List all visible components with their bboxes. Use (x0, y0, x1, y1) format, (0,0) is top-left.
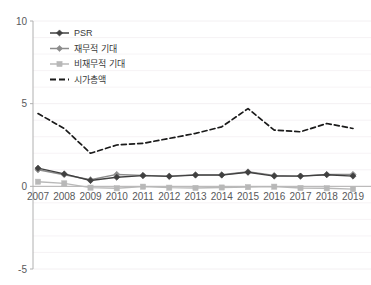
x-axis-tick-label: 2012 (158, 191, 181, 202)
data-point-marker (114, 186, 119, 191)
data-point-marker (298, 185, 303, 190)
x-axis-tick-label: 2016 (263, 191, 286, 202)
data-point-marker (219, 185, 224, 190)
x-axis-tick-label: 2015 (237, 191, 260, 202)
x-axis-tick-label: 2014 (211, 191, 234, 202)
series-4 (38, 109, 353, 154)
data-point-marker (62, 181, 67, 186)
data-point-marker (140, 172, 146, 178)
legend-item-2[interactable]: 재무적 기대 (50, 43, 117, 54)
x-axis-tick-label: 2019 (342, 191, 365, 202)
gridlines (33, 21, 371, 269)
y-axis-tick-label: 0 (21, 181, 27, 192)
x-axis-tick-label: 2010 (106, 191, 129, 202)
legend-label: PSR (74, 28, 93, 38)
legend-label: 비재무적 기대 (74, 58, 125, 69)
data-point-marker (324, 186, 329, 191)
legend-item-3[interactable]: 비재무적 기대 (50, 58, 125, 69)
data-point-marker (297, 173, 303, 179)
x-axis-tick-label: 2011 (132, 191, 154, 202)
data-point-marker (57, 61, 62, 66)
data-point-marker (35, 179, 40, 184)
x-axis-tick-labels: 2007200820092010201120122013201420152016… (27, 191, 365, 202)
series-3 (35, 179, 355, 192)
legend-item-1[interactable]: PSR (50, 28, 93, 38)
x-axis-tick-label: 2018 (316, 191, 339, 202)
data-point-marker (88, 185, 93, 190)
series-line (38, 109, 353, 154)
data-point-marker (271, 173, 277, 179)
x-axis-tick-label: 2009 (79, 191, 102, 202)
data-point-marker (140, 184, 145, 189)
data-point-marker (350, 187, 355, 192)
data-point-marker (56, 45, 62, 51)
line-chart: 1050-5 200720082009201020112012201320142… (0, 0, 371, 285)
x-axis-tick-label: 2007 (27, 191, 50, 202)
data-point-marker (166, 173, 172, 179)
legend-label: 시가총액 (74, 74, 106, 85)
data-point-marker (219, 172, 225, 178)
chart-legend: PSR재무적 기대비재무적 기대시가총액 (50, 28, 125, 85)
x-axis-tick-label: 2008 (53, 191, 76, 202)
data-point-marker (192, 172, 198, 178)
series-1 (35, 165, 356, 184)
data-point-marker (167, 185, 172, 190)
data-point-marker (56, 30, 62, 36)
x-axis-tick-label: 2017 (289, 191, 312, 202)
y-axis-tick-labels: 1050-5 (16, 16, 28, 275)
data-point-marker (272, 184, 277, 189)
data-point-marker (324, 172, 330, 178)
y-axis-tick-label: 5 (21, 98, 27, 109)
x-axis-tick-label: 2013 (184, 191, 207, 202)
y-axis-tick-label: 10 (16, 16, 28, 27)
data-series-group (35, 109, 356, 192)
chart-canvas: 1050-5 200720082009201020112012201320142… (0, 0, 371, 285)
data-point-marker (193, 185, 198, 190)
legend-item-4[interactable]: 시가총액 (50, 74, 106, 85)
legend-label: 재무적 기대 (74, 43, 117, 54)
data-point-marker (245, 185, 250, 190)
y-axis-tick-label: -5 (18, 264, 27, 275)
